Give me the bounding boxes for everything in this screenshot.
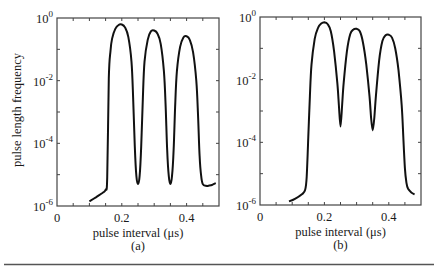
y-tick-label: 10-6 — [236, 196, 256, 213]
x-axis-label: pulse interval (μs) — [295, 225, 386, 239]
x-tick-label: 0 — [54, 211, 60, 225]
x-tick-label: 0.2 — [317, 210, 333, 224]
figure: pulse length frequency 00.20.410-610-410… — [0, 0, 434, 268]
x-tick-label: 0.4 — [179, 211, 195, 225]
plot-frame — [57, 18, 219, 206]
x-tick-label: 0.4 — [381, 210, 397, 224]
x-tick-label: 0.2 — [114, 211, 130, 225]
panel-b: 00.20.410-610-410-2100pulse interval (μs… — [236, 8, 421, 252]
y-tick-label: 10-2 — [33, 72, 53, 89]
y-axis-label: pulse length frequency — [10, 52, 24, 167]
panel-a: 00.20.410-610-410-2100pulse interval (μs… — [33, 9, 219, 253]
y-tick-label: 10-4 — [236, 133, 256, 150]
y-tick-label: 10-6 — [33, 197, 53, 214]
data-curve — [289, 22, 415, 201]
y-tick-label: 100 — [36, 9, 54, 26]
y-tick-label: 10-2 — [236, 71, 256, 88]
x-axis-label: pulse interval (μs) — [93, 226, 184, 240]
y-tick-label: 10-4 — [33, 134, 53, 151]
x-tick-label: 0 — [257, 210, 263, 224]
panel-label: (b) — [333, 238, 348, 252]
plot-frame — [260, 17, 421, 205]
y-tick-label: 100 — [239, 8, 257, 25]
panel-label: (a) — [131, 239, 145, 253]
data-curve — [89, 24, 215, 201]
